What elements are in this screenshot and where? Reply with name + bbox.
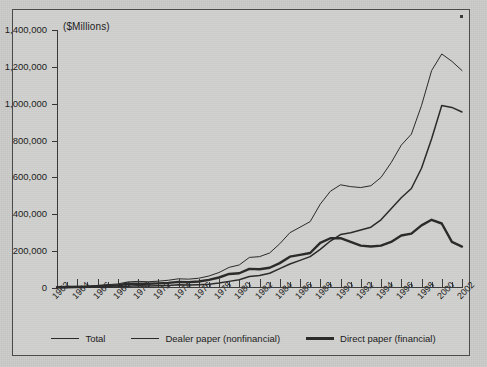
series-line xyxy=(57,220,462,287)
line-chart: ($Millions) 0200,000400,000600,000800,00… xyxy=(0,0,487,367)
legend-item: Dealer paper (nonfinancial) xyxy=(131,333,280,344)
legend-item: Total xyxy=(51,333,105,344)
legend-line-swatch xyxy=(306,337,334,340)
legend-label: Direct paper (financial) xyxy=(340,333,436,344)
series-layer xyxy=(0,0,487,367)
legend-label: Dealer paper (nonfinancial) xyxy=(165,333,280,344)
legend-item: Direct paper (financial) xyxy=(306,333,436,344)
legend-line-swatch xyxy=(131,338,159,340)
series-line xyxy=(57,54,462,287)
chart-legend: TotalDealer paper (nonfinancial)Direct p… xyxy=(0,333,487,344)
series-line xyxy=(57,106,462,288)
legend-label: Total xyxy=(85,333,105,344)
legend-line-swatch xyxy=(51,338,79,339)
